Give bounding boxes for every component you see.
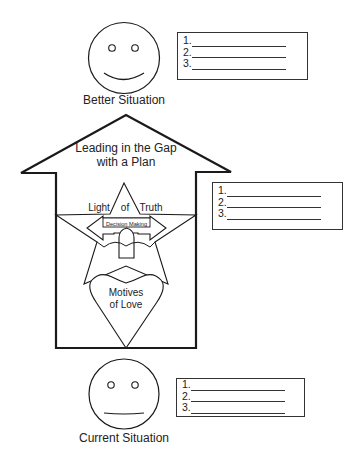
right-eye-icon (132, 382, 138, 388)
list-item[interactable]: 3. (218, 208, 342, 220)
blank-line[interactable] (191, 392, 285, 402)
star-word-of: of (121, 202, 130, 213)
house-title-line2: with a Plan (96, 155, 156, 169)
blank-line[interactable] (192, 48, 286, 58)
list-item[interactable]: 3. (183, 58, 307, 70)
better-situation-face (89, 23, 160, 94)
right-eye-icon (132, 45, 139, 52)
better-situation-list: 1. 2. 3. (177, 32, 308, 80)
decision-making-label: Decision Making (106, 221, 147, 227)
blank-line[interactable] (227, 187, 321, 197)
list-item[interactable]: 1. (218, 185, 342, 197)
smile-mouth-icon (104, 73, 144, 80)
house-title-line1: Leading in the Gap (75, 141, 177, 155)
list-item[interactable]: 2. (183, 47, 307, 59)
face-outline (89, 23, 160, 94)
current-situation-face (89, 359, 159, 429)
blank-line[interactable] (191, 381, 285, 391)
star-word-truth: Truth (140, 202, 163, 213)
blank-line[interactable] (227, 198, 321, 208)
plan-list: 1. 2. 3. (212, 182, 343, 230)
list-item[interactable]: 2. (218, 197, 342, 209)
blank-line[interactable] (227, 210, 321, 220)
heart-shape (90, 275, 164, 348)
list-item[interactable]: 1. (183, 35, 307, 47)
list-item[interactable]: 3. (182, 402, 304, 414)
blank-line[interactable] (191, 404, 285, 414)
left-eye-icon (109, 45, 116, 52)
list-item[interactable]: 1. (182, 379, 304, 391)
blank-line[interactable] (192, 60, 286, 70)
face-outline (89, 359, 159, 429)
blank-line[interactable] (192, 37, 286, 47)
neutral-mouth-icon (104, 413, 144, 414)
better-situation-label: Better Situation (83, 93, 165, 107)
left-eye-icon (108, 382, 114, 388)
current-situation-label: Current Situation (79, 431, 169, 445)
current-situation-list: 1. 2. 3. (176, 378, 305, 417)
heart-line2: of Love (110, 299, 143, 310)
list-item[interactable]: 2. (182, 391, 304, 403)
star-word-light: Light (88, 202, 110, 213)
heart-line1: Motives (109, 287, 143, 298)
